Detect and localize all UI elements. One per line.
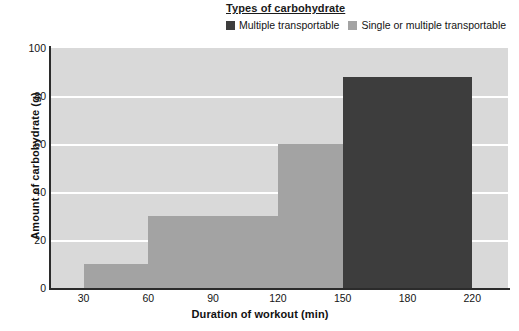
- y-tick-100: 100: [4, 43, 46, 53]
- y-tick-20: 20: [4, 235, 46, 245]
- bar-30-60: [84, 264, 149, 288]
- plot-area: [51, 48, 508, 288]
- x-tick-220: 220: [452, 292, 492, 304]
- bar-150-220: [343, 77, 473, 288]
- y-axis-line: [49, 46, 51, 290]
- legend-title: Types of carbohydrate: [226, 2, 516, 15]
- x-tick-30: 30: [64, 292, 104, 304]
- legend-entries: Multiple transportable Single or multipl…: [226, 19, 516, 31]
- legend-swatch-single-icon: [348, 21, 357, 30]
- legend-label-single: Single or multiple transportable: [361, 19, 506, 31]
- x-tick-150: 150: [323, 292, 363, 304]
- y-tick-40: 40: [4, 187, 46, 197]
- legend-entry-multiple: Multiple transportable: [226, 19, 339, 31]
- carbohydrate-bar-chart: Types of carbohydrate Multiple transport…: [0, 0, 519, 331]
- x-tick-120: 120: [258, 292, 298, 304]
- x-tick-90: 90: [193, 292, 233, 304]
- y-tick-60: 60: [4, 139, 46, 149]
- y-axis-tick-labels: 020406080100: [0, 0, 46, 331]
- y-tick-80: 80: [4, 91, 46, 101]
- legend-entry-single: Single or multiple transportable: [348, 19, 506, 31]
- x-tick-180: 180: [388, 292, 428, 304]
- x-tick-60: 60: [128, 292, 168, 304]
- x-axis-title: Duration of workout (min): [60, 308, 460, 320]
- x-axis-line: [49, 288, 510, 290]
- legend-swatch-multiple-icon: [226, 21, 235, 30]
- bar-60-120: [148, 216, 278, 288]
- chart-legend: Types of carbohydrate Multiple transport…: [226, 2, 516, 31]
- y-tick-0: 0: [4, 283, 46, 293]
- legend-label-multiple: Multiple transportable: [239, 19, 339, 31]
